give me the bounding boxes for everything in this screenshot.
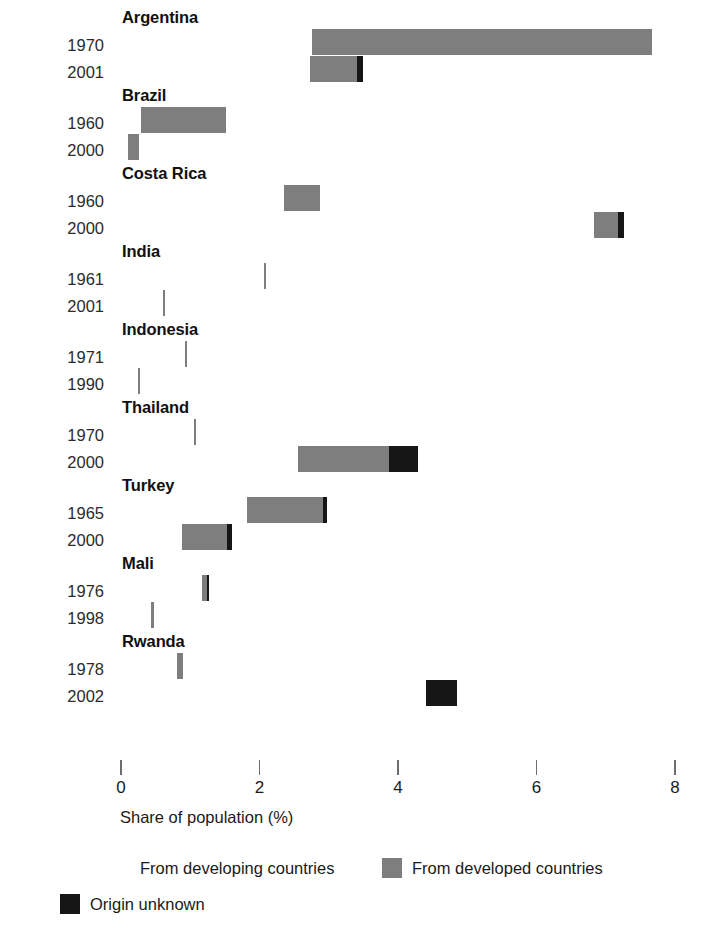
bar-segment-unknown bbox=[426, 680, 457, 706]
x-axis-tick-mark bbox=[674, 760, 676, 775]
year-label: 1960 bbox=[18, 114, 104, 133]
country-label: Rwanda bbox=[122, 632, 185, 651]
bar-segment-unknown bbox=[357, 56, 363, 82]
bar-segment-unknown bbox=[207, 575, 209, 601]
country-label: India bbox=[122, 242, 160, 261]
country-group: Turkey19652000 bbox=[0, 476, 704, 556]
legend-item: Origin unknown bbox=[60, 894, 205, 914]
year-label: 1961 bbox=[18, 270, 104, 289]
country-group: Brazil19602000 bbox=[0, 86, 704, 166]
bar-segment-unknown bbox=[618, 212, 624, 238]
country-label: Turkey bbox=[122, 476, 174, 495]
bar-segment-developed bbox=[185, 341, 187, 367]
legend-item: From developed countries bbox=[382, 858, 603, 878]
country-group: India19612001 bbox=[0, 242, 704, 322]
country-group: Mali19761998 bbox=[0, 554, 704, 634]
x-axis-tick-label: 0 bbox=[116, 778, 125, 798]
horizontal-stacked-bar-chart: Argentina19702001Brazil19602000Costa Ric… bbox=[0, 0, 704, 951]
year-label: 1978 bbox=[18, 660, 104, 679]
country-group: Argentina19702001 bbox=[0, 8, 704, 88]
x-axis-tick-mark bbox=[397, 760, 399, 775]
country-group: Indonesia19711990 bbox=[0, 320, 704, 400]
country-label: Mali bbox=[122, 554, 154, 573]
bar-segment-developed bbox=[194, 419, 196, 445]
x-axis-title: Share of population (%) bbox=[120, 808, 293, 827]
year-label: 1970 bbox=[18, 426, 104, 445]
country-label: Costa Rica bbox=[122, 164, 206, 183]
bar-segment-developed bbox=[284, 185, 320, 211]
legend-label: From developing countries bbox=[140, 859, 334, 878]
year-label: 2000 bbox=[18, 141, 104, 160]
bar-segment-developed bbox=[298, 446, 389, 472]
legend-swatch-unknown bbox=[60, 894, 80, 914]
bar-segment-unknown bbox=[227, 524, 232, 550]
year-label: 2001 bbox=[18, 297, 104, 316]
country-label: Indonesia bbox=[122, 320, 198, 339]
year-label: 2002 bbox=[18, 687, 104, 706]
bar-segment-developed bbox=[128, 134, 139, 160]
x-axis-tick-label: 2 bbox=[255, 778, 264, 798]
country-group: Costa Rica19602000 bbox=[0, 164, 704, 244]
bar-segment-developed bbox=[141, 107, 226, 133]
year-label: 1990 bbox=[18, 375, 104, 394]
x-axis: Share of population (%) 02468 bbox=[0, 760, 704, 830]
bar-segment-developed bbox=[177, 653, 183, 679]
legend-swatch-developed bbox=[382, 858, 402, 878]
bar-segment-developed bbox=[182, 524, 227, 550]
x-axis-tick-mark bbox=[120, 760, 122, 775]
bar-segment-developed bbox=[594, 212, 618, 238]
bar-segment-developed bbox=[163, 290, 165, 316]
bar-segment-developed bbox=[310, 56, 357, 82]
legend-item: From developing countries bbox=[110, 858, 334, 878]
year-label: 1998 bbox=[18, 609, 104, 628]
bar-segment-unknown bbox=[323, 497, 327, 523]
year-label: 1960 bbox=[18, 192, 104, 211]
plot-area: Argentina19702001Brazil19602000Costa Ric… bbox=[0, 0, 704, 760]
bar-segment-developed bbox=[138, 368, 140, 394]
x-axis-tick-label: 6 bbox=[532, 778, 541, 798]
country-group: Rwanda19782002 bbox=[0, 632, 704, 712]
year-label: 1970 bbox=[18, 36, 104, 55]
x-axis-tick-mark bbox=[536, 760, 538, 775]
bar-segment-unknown bbox=[389, 446, 418, 472]
legend-label: From developed countries bbox=[412, 859, 603, 878]
country-label: Brazil bbox=[122, 86, 166, 105]
year-label: 2000 bbox=[18, 219, 104, 238]
country-group: Thailand19702000 bbox=[0, 398, 704, 478]
chart-legend: From developing countriesFrom developed … bbox=[0, 858, 704, 948]
bar-segment-developed bbox=[264, 263, 266, 289]
year-label: 1965 bbox=[18, 504, 104, 523]
year-label: 1976 bbox=[18, 582, 104, 601]
country-label: Argentina bbox=[122, 8, 198, 27]
bar-segment-developed bbox=[151, 602, 153, 628]
legend-swatch-developing bbox=[110, 858, 130, 878]
x-axis-tick-label: 8 bbox=[670, 778, 679, 798]
year-label: 1971 bbox=[18, 348, 104, 367]
year-label: 2001 bbox=[18, 63, 104, 82]
bar-segment-developed bbox=[247, 497, 323, 523]
year-label: 2000 bbox=[18, 531, 104, 550]
x-axis-tick-mark bbox=[259, 760, 261, 775]
x-axis-tick-label: 4 bbox=[393, 778, 402, 798]
year-label: 2000 bbox=[18, 453, 104, 472]
legend-label: Origin unknown bbox=[90, 895, 205, 914]
country-label: Thailand bbox=[122, 398, 189, 417]
bar-segment-developed bbox=[312, 29, 652, 55]
